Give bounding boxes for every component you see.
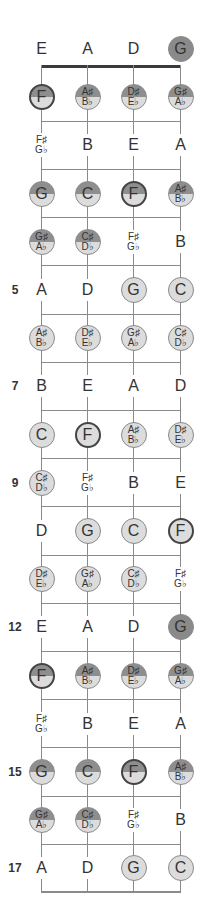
note-marker: D♯E♭ bbox=[168, 422, 194, 448]
note-enharmonic: E♭ bbox=[82, 338, 94, 348]
note-marker: A♯B♭ bbox=[168, 759, 194, 785]
note-name: F bbox=[83, 427, 93, 443]
note-enharmonic: A♭ bbox=[36, 242, 48, 252]
fret-line bbox=[41, 603, 181, 604]
fretboard-diagram: EADGFA♯B♭D♯E♭G♯A♭F♯G♭BEAGCFA♯B♭G♯A♭C♯D♭F… bbox=[0, 0, 205, 911]
note-enharmonic: G♭ bbox=[174, 578, 187, 589]
fret-number: 15 bbox=[7, 765, 23, 779]
note-enharmonic: E♭ bbox=[175, 435, 187, 445]
note-name: C bbox=[175, 282, 187, 298]
note-marker: G bbox=[168, 36, 194, 62]
note-name: E bbox=[128, 136, 139, 153]
fret-number: 7 bbox=[7, 379, 23, 393]
note-label: A bbox=[35, 857, 48, 879]
note-name: G bbox=[174, 619, 186, 635]
fret-line bbox=[41, 314, 181, 315]
note-name: G bbox=[35, 186, 47, 202]
note-label: E bbox=[81, 375, 94, 397]
note-name: F bbox=[37, 668, 47, 684]
note-label: F♯G♭ bbox=[126, 230, 141, 254]
note-name: F bbox=[129, 764, 139, 780]
note-label: A bbox=[81, 38, 94, 60]
fret-line bbox=[41, 892, 181, 893]
note-name: G bbox=[35, 764, 47, 780]
fret-line bbox=[41, 458, 181, 459]
root-note-marker: F bbox=[29, 663, 55, 689]
note-name: F bbox=[129, 186, 139, 202]
note-name: A bbox=[175, 715, 186, 732]
note-name: E bbox=[82, 377, 93, 394]
note-name: B bbox=[175, 811, 186, 828]
note-label: B bbox=[127, 472, 140, 494]
note-marker: A♯B♭ bbox=[121, 422, 147, 448]
note-name: A bbox=[82, 40, 93, 57]
note-enharmonic: A♭ bbox=[36, 820, 48, 830]
note-label: D bbox=[127, 38, 141, 60]
note-enharmonic: G♭ bbox=[35, 723, 48, 734]
root-note-marker: F bbox=[29, 84, 55, 110]
note-label: A bbox=[174, 134, 187, 156]
fret-line bbox=[41, 506, 181, 507]
note-marker: G♯A♭ bbox=[29, 229, 55, 255]
note-marker: A♯B♭ bbox=[75, 84, 101, 110]
note-marker: A♯B♭ bbox=[168, 181, 194, 207]
note-marker: C♯D♭ bbox=[75, 229, 101, 255]
note-label: B bbox=[35, 375, 48, 397]
note-label: A bbox=[127, 375, 140, 397]
note-name: A bbox=[175, 136, 186, 153]
note-enharmonic: B♭ bbox=[36, 338, 48, 348]
note-marker: G bbox=[29, 181, 55, 207]
note-enharmonic: D♭ bbox=[81, 820, 93, 830]
note-label: F♯G♭ bbox=[80, 471, 95, 495]
note-label: E bbox=[127, 713, 140, 735]
note-name: C bbox=[82, 764, 94, 780]
note-enharmonic: B♭ bbox=[175, 194, 187, 204]
note-marker: G bbox=[121, 855, 147, 881]
note-marker: G♯A♭ bbox=[168, 663, 194, 689]
note-name: E bbox=[36, 618, 47, 635]
note-marker: C bbox=[168, 855, 194, 881]
note-name: A bbox=[36, 281, 47, 298]
note-label: A bbox=[174, 713, 187, 735]
fret-line bbox=[41, 362, 181, 363]
note-label: E bbox=[127, 134, 140, 156]
fret-number: 9 bbox=[7, 476, 23, 490]
note-marker: D♯E♭ bbox=[121, 84, 147, 110]
note-name: E bbox=[175, 474, 186, 491]
fret-number: 12 bbox=[7, 620, 23, 634]
fret-line bbox=[41, 410, 181, 411]
note-name: B bbox=[36, 377, 47, 394]
note-marker: D♯E♭ bbox=[29, 566, 55, 592]
note-enharmonic: A♭ bbox=[128, 338, 140, 348]
note-enharmonic: B♭ bbox=[128, 435, 140, 445]
fret-line bbox=[41, 169, 181, 170]
note-enharmonic: D♭ bbox=[127, 579, 139, 589]
note-marker: A♯B♭ bbox=[75, 663, 101, 689]
note-enharmonic: B♭ bbox=[82, 676, 94, 686]
root-note-marker: F bbox=[75, 422, 101, 448]
nut-line bbox=[41, 65, 181, 68]
note-marker: C♯D♭ bbox=[168, 325, 194, 351]
note-name: D bbox=[36, 522, 48, 539]
fret-line bbox=[41, 891, 181, 892]
fret-line bbox=[41, 747, 181, 748]
fret-line bbox=[41, 796, 181, 797]
note-label: D bbox=[174, 375, 188, 397]
note-label: F♯G♭ bbox=[173, 567, 188, 591]
fret-number: 17 bbox=[7, 861, 23, 875]
note-enharmonic: B♭ bbox=[175, 772, 187, 782]
note-marker: G♯A♭ bbox=[29, 807, 55, 833]
note-marker: C♯D♭ bbox=[75, 807, 101, 833]
root-note-marker: F bbox=[168, 518, 194, 544]
note-name: G bbox=[174, 41, 186, 57]
note-marker: C bbox=[121, 518, 147, 544]
note-label: E bbox=[174, 472, 187, 494]
note-marker: C♯D♭ bbox=[121, 566, 147, 592]
note-label: E bbox=[35, 38, 48, 60]
fret-number: 5 bbox=[7, 283, 23, 297]
note-name: C bbox=[128, 523, 140, 539]
note-label: E bbox=[35, 616, 48, 638]
root-note-marker: F bbox=[121, 181, 147, 207]
note-enharmonic: E♭ bbox=[36, 579, 48, 589]
note-name: A bbox=[36, 859, 47, 876]
